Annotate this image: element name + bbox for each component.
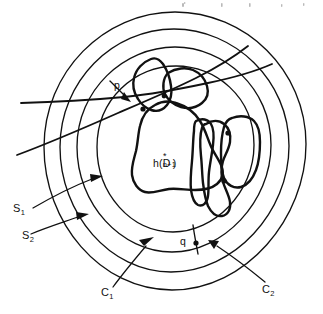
irregular-blobs-group [132, 58, 260, 216]
label-p-text: p [114, 79, 120, 91]
dot-right-lower-intersection [221, 178, 226, 183]
label-point-p: p [114, 80, 120, 91]
circle-c2-outer [44, 12, 306, 290]
arrowhead-c1 [139, 237, 154, 246]
concentric-circles-group [44, 12, 306, 290]
label-s1-sub: 1 [21, 208, 25, 217]
scan-artifacts [182, 2, 304, 7]
circle-inner-upper [77, 47, 271, 252]
label-circle-c2: C2 [262, 284, 274, 295]
label-point-q: q [180, 236, 186, 247]
label-center-subscript: n+1 [163, 161, 176, 169]
leader-c2 [217, 246, 265, 282]
label-curve-s2: S2 [22, 230, 34, 241]
label-c1-sub: 1 [109, 292, 113, 301]
curve-s1 [21, 64, 272, 103]
arrowhead-c2 [208, 240, 219, 249]
label-s2-base: S [22, 229, 29, 241]
label-center-symbol-stack: D*n+1 [163, 158, 173, 169]
leader-s2 [31, 217, 78, 234]
dot-p-intersection [140, 106, 145, 111]
leader-c1 [113, 246, 146, 287]
label-c2-base: C [262, 283, 270, 295]
intersection-dots-group [140, 94, 230, 246]
label-s1-base: S [13, 202, 20, 214]
dot-upper-right-intersection [162, 94, 167, 99]
label-s2-sub: 2 [30, 235, 34, 244]
label-q-text: q [180, 235, 186, 247]
figure-root: h(D*n+1) p q S1 S2 C1 C2 [0, 0, 323, 314]
label-c1-base: C [101, 286, 109, 298]
arrowhead-s2 [76, 212, 89, 220]
dot-right-upper-intersection [225, 130, 230, 135]
label-circle-c1: C1 [101, 287, 113, 298]
label-curve-s1: S1 [13, 203, 25, 214]
label-center-region: h(D*n+1) [153, 158, 176, 169]
label-c2-sub: 2 [270, 289, 274, 298]
label-center-head: h( [153, 157, 163, 169]
blob-upper-left [133, 58, 171, 110]
